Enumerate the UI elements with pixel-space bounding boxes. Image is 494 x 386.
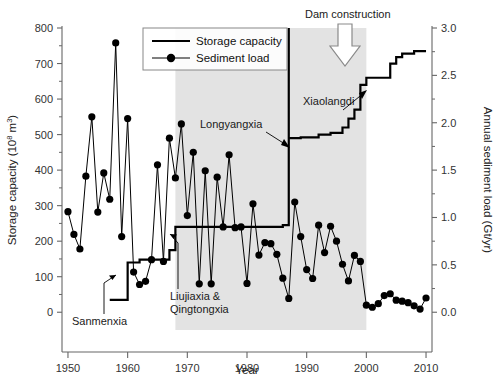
y-tick-label-400: 400	[35, 164, 53, 176]
data-point-sediment-1960	[124, 115, 131, 122]
x-tick-label-1950: 1950	[56, 362, 80, 374]
data-point-sediment-1959	[118, 233, 125, 240]
shaded-region-dam-era	[175, 28, 366, 330]
y2-tick-label-1.5: 1.5	[441, 164, 456, 176]
data-point-sediment-1991	[309, 275, 316, 282]
y-left-title-main: Storage capacity (10	[6, 140, 18, 245]
chart-legend: Storage capacity Sediment load	[143, 28, 287, 70]
data-point-sediment-1988	[291, 198, 298, 205]
data-point-sediment-1950	[64, 208, 71, 215]
data-point-sediment-1980	[243, 280, 250, 287]
data-point-sediment-2002	[375, 300, 382, 307]
y-tick-label-600: 600	[35, 93, 53, 105]
data-point-sediment-1981	[249, 200, 256, 207]
data-point-sediment-1993	[321, 249, 328, 256]
annotation-dam-construction: Dam construction	[305, 8, 391, 20]
chart-figure: 0100200300400500600700800 0.00.51.01.52.…	[0, 0, 494, 386]
y-tick-label-200: 200	[35, 235, 53, 247]
annotation-xiaolangdi: Xiaolangdi	[303, 95, 354, 107]
data-point-sediment-1994	[327, 223, 334, 230]
data-point-sediment-1969	[178, 120, 185, 127]
data-point-sediment-1967	[166, 135, 173, 142]
annotation-liujiaxia: Liujiaxia &	[170, 290, 221, 302]
y-tick-label-700: 700	[35, 58, 53, 70]
y-tick-label-100: 100	[35, 271, 53, 283]
data-point-sediment-1956	[100, 169, 107, 176]
data-point-sediment-1965	[154, 161, 161, 168]
data-point-sediment-1961	[130, 268, 137, 275]
legend-label-storage-capacity: Storage capacity	[196, 35, 282, 47]
data-point-sediment-2010	[422, 294, 429, 301]
x-axis-title: Year	[235, 364, 258, 376]
legend-swatch-sediment-load-dot	[167, 54, 175, 62]
x-tick-label-1960: 1960	[115, 362, 139, 374]
data-point-sediment-1998	[351, 252, 358, 259]
data-point-sediment-1952	[76, 245, 83, 252]
data-point-sediment-1995	[333, 238, 340, 245]
data-point-sediment-1985	[273, 251, 280, 258]
y-tick-label-800: 800	[35, 22, 53, 34]
data-point-sediment-1954	[88, 113, 95, 120]
x-tick-label-1990: 1990	[294, 362, 318, 374]
legend-label-sediment-load: Sediment load	[196, 52, 270, 64]
data-point-sediment-1953	[82, 173, 89, 180]
data-point-sediment-1992	[315, 222, 322, 229]
y-left-title-tail: m	[6, 123, 18, 136]
annotation-sanmenxia: Sanmenxia	[72, 315, 128, 327]
data-point-sediment-1955	[94, 208, 101, 215]
data-point-sediment-2009	[416, 305, 423, 312]
x-tick-label-2000: 2000	[354, 362, 378, 374]
data-point-sediment-1996	[339, 261, 346, 268]
data-point-sediment-1963	[142, 278, 149, 285]
x-tick-label-1970: 1970	[175, 362, 199, 374]
data-point-sediment-1999	[357, 258, 364, 265]
y-left-title-close: )	[6, 115, 18, 119]
data-point-sediment-1983	[261, 239, 268, 246]
annotation-longyangxia: Longyangxia	[200, 118, 263, 130]
chart-svg: 0100200300400500600700800 0.00.51.01.52.…	[0, 0, 494, 386]
x-tick-label-2010: 2010	[414, 362, 438, 374]
annotation-qingtongxia: Qingtongxia	[170, 303, 230, 315]
data-point-sediment-1997	[345, 277, 352, 284]
data-point-sediment-2004	[387, 290, 394, 297]
y2-tick-label-0.0: 0.0	[441, 306, 456, 318]
data-point-sediment-2006	[399, 298, 406, 305]
data-point-sediment-1989	[297, 233, 304, 240]
y2-tick-label-2.0: 2.0	[441, 117, 456, 129]
data-point-sediment-1982	[255, 251, 262, 258]
y2-tick-label-0.5: 0.5	[441, 259, 456, 271]
data-point-sediment-1972	[196, 280, 203, 287]
y-tick-label-0: 0	[47, 306, 53, 318]
data-point-sediment-1957	[106, 196, 113, 203]
y-axis-left-title: Storage capacity (108 m3)	[5, 115, 18, 246]
data-point-sediment-1975	[214, 174, 221, 181]
data-point-sediment-1973	[202, 167, 209, 174]
data-point-sediment-1987	[285, 295, 292, 302]
data-point-sediment-1951	[70, 231, 77, 238]
data-point-sediment-1970	[184, 212, 191, 219]
y-tick-label-300: 300	[35, 200, 53, 212]
data-point-sediment-1968	[172, 174, 179, 181]
data-point-sediment-1977	[225, 151, 232, 158]
data-point-sediment-1958	[112, 39, 119, 46]
data-point-sediment-1971	[190, 149, 197, 156]
y-tick-label-500: 500	[35, 129, 53, 141]
data-point-sediment-1990	[303, 266, 310, 273]
data-point-sediment-1984	[267, 240, 274, 247]
y2-tick-label-2.5: 2.5	[441, 69, 456, 81]
y-axis-right-title: Annual sediment load (Gt/yr)	[482, 107, 494, 254]
y2-tick-label-3.0: 3.0	[441, 22, 456, 34]
data-point-sediment-2005	[393, 297, 400, 304]
data-point-sediment-1986	[279, 275, 286, 282]
y2-tick-label-1.0: 1.0	[441, 211, 456, 223]
data-point-sediment-1974	[208, 280, 215, 287]
